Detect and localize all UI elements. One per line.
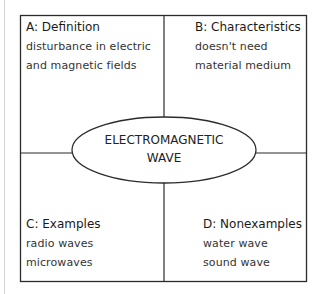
quadrant-definition: A: Definition disturbance in electric an… xyxy=(26,18,151,75)
quadrant-nonexamples: D: Nonexamples water wave sound wave xyxy=(203,215,302,272)
quadrant-item: radio waves xyxy=(26,234,101,253)
quadrant-item: disturbance in electric xyxy=(26,37,151,56)
quadrant-item: material medium xyxy=(195,56,301,75)
center-term: ELECTROMAGNETIC WAVE xyxy=(72,131,256,167)
quadrant-item: and magnetic fields xyxy=(26,56,151,75)
quadrant-title: B: Characteristics xyxy=(195,18,301,37)
quadrant-title: D: Nonexamples xyxy=(203,215,302,234)
quadrant-title: C: Examples xyxy=(26,215,101,234)
quadrant-item: sound wave xyxy=(203,253,302,272)
center-term-line1: ELECTROMAGNETIC xyxy=(72,131,256,149)
quadrant-examples: C: Examples radio waves microwaves xyxy=(26,215,101,272)
quadrant-item: doesn't need xyxy=(195,37,301,56)
quadrant-item: microwaves xyxy=(26,253,101,272)
quadrant-item: water wave xyxy=(203,234,302,253)
center-term-line2: WAVE xyxy=(72,149,256,167)
quadrant-title: A: Definition xyxy=(26,18,151,37)
quadrant-characteristics: B: Characteristics doesn't need material… xyxy=(195,18,301,75)
